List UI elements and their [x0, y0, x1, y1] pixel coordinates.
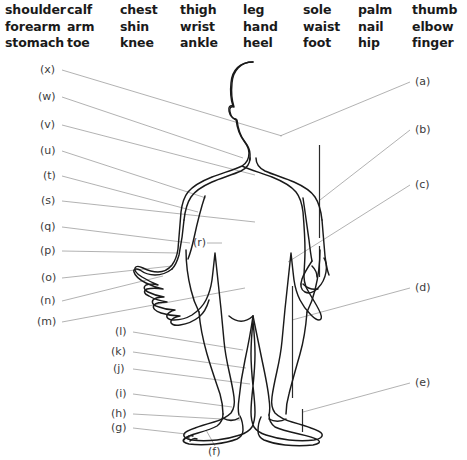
label-n[interactable]: (n): [40, 295, 56, 306]
label-q[interactable]: (q): [40, 221, 56, 232]
label-t[interactable]: (t): [43, 170, 56, 181]
leader-line-v: [62, 125, 255, 175]
label-o[interactable]: (o): [41, 272, 56, 283]
label-d[interactable]: (d): [415, 282, 431, 293]
leader-lines-lower-left: [133, 332, 250, 434]
leader-line-u: [62, 151, 206, 198]
label-j[interactable]: (j): [113, 363, 125, 374]
label-u[interactable]: (u): [40, 145, 56, 156]
label-l[interactable]: (l): [115, 326, 127, 337]
legs-outline-right-path: [286, 312, 307, 414]
label-s[interactable]: (s): [41, 195, 55, 206]
human-body-outline: [134, 62, 329, 446]
leader-line-g: [133, 428, 186, 434]
leader-lines-left: [62, 70, 282, 322]
label-c[interactable]: (c): [415, 179, 430, 190]
label-r[interactable]: (r): [193, 237, 206, 248]
label-a[interactable]: (a): [415, 76, 430, 87]
leader-line-e: [303, 383, 410, 412]
crotch-path: [229, 316, 253, 321]
leader-line-i: [133, 394, 232, 407]
leader-line-l: [133, 332, 243, 350]
label-i[interactable]: (i): [115, 388, 127, 399]
leader-line-j: [133, 369, 250, 384]
leader-lines-right: [280, 82, 410, 412]
leader-line-q: [62, 227, 190, 243]
left-arm-inner-path: [188, 196, 205, 259]
label-b[interactable]: (b): [415, 124, 431, 135]
label-m[interactable]: (m): [37, 316, 56, 327]
body-diagram-svg: [0, 0, 467, 460]
label-k[interactable]: (k): [111, 346, 126, 357]
label-w[interactable]: (w): [38, 91, 56, 102]
leader-line-x: [62, 70, 282, 136]
leader-line-k: [133, 352, 246, 368]
leader-line-a: [280, 82, 410, 136]
leader-line-s: [62, 201, 255, 222]
body-silhouette-path: [135, 62, 322, 441]
label-v[interactable]: (v): [40, 119, 55, 130]
label-f[interactable]: (f): [208, 446, 220, 457]
label-e[interactable]: (e): [415, 377, 430, 388]
label-g[interactable]: (g): [111, 422, 127, 433]
leader-line-t: [62, 176, 198, 212]
head-outline-path: [230, 62, 253, 160]
label-x[interactable]: (x): [40, 64, 55, 75]
label-p[interactable]: (p): [40, 245, 56, 256]
worksheet-sheet: shoulder forearm stomach calf arm toe ch…: [0, 0, 467, 460]
leader-line-b: [320, 130, 410, 200]
right-hand-thumb-path: [312, 266, 317, 277]
torso-right-path: [307, 250, 320, 312]
neck-shoulders-path-right: [256, 158, 322, 220]
inner-right-leg-path: [253, 316, 270, 415]
label-h[interactable]: (h): [111, 408, 127, 419]
leader-line-p: [62, 251, 178, 253]
right-arm-outline-path: [322, 220, 329, 275]
